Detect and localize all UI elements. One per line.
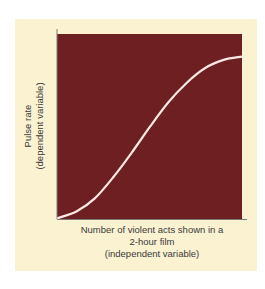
x-axis-label-line-2: 2-hour film <box>57 236 247 248</box>
y-axis-label-line-1: Pulse rate <box>22 71 34 181</box>
x-axis-label-line-3: (independent variable) <box>57 248 247 260</box>
x-axis-label: Number of violent acts shown in a 2-hour… <box>57 224 247 260</box>
y-axis-label: Pulse rate (dependent variable) <box>22 71 46 181</box>
y-axis-label-line-2: (dependent variable) <box>34 71 46 181</box>
x-axis-label-line-1: Number of violent acts shown in a <box>57 224 247 236</box>
